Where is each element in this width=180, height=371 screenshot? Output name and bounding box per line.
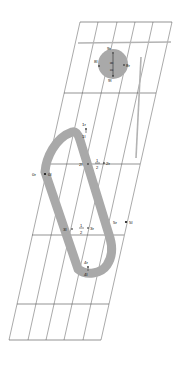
label-group-5: 5r 5l bbox=[113, 220, 132, 225]
diagram-canvas: 9r 9l 8l 8r 8 0 1r 1l 2l 1 2 bbox=[0, 0, 180, 371]
label-1r: 1r bbox=[82, 122, 86, 127]
label-0r: 0r bbox=[32, 172, 36, 177]
stadium-track-shape bbox=[45, 132, 112, 273]
label-group-1: 1r 1l bbox=[82, 122, 87, 139]
label-point-9r bbox=[112, 52, 114, 54]
label-4r: 4r bbox=[84, 260, 88, 265]
label-point-8l bbox=[98, 65, 100, 67]
label-8l: 8l bbox=[94, 59, 97, 64]
grid-column-line bbox=[28, 22, 98, 340]
geometric-diagram-svg: 9r 9l 8l 8r 8 0 1r 1l 2l 1 2 bbox=[0, 0, 180, 371]
label-2r: 2r bbox=[106, 161, 110, 166]
label-point-2l bbox=[87, 163, 89, 165]
label-3r: 3r bbox=[90, 226, 94, 231]
label-0l: 0l bbox=[48, 172, 51, 177]
label-9r: 9r bbox=[107, 46, 111, 51]
fraction-numerator: 1 bbox=[96, 158, 99, 163]
label-point-2r bbox=[103, 162, 105, 164]
label-4l: 4l bbox=[84, 272, 87, 277]
fraction-numerator-2: 1 bbox=[80, 223, 83, 228]
label-9l: 9l bbox=[108, 78, 111, 83]
label-8r: 8r bbox=[126, 63, 130, 68]
fraction-denominator: 2 bbox=[96, 165, 99, 170]
label-point-3r bbox=[87, 227, 89, 229]
fraction-denominator-2: 2 bbox=[80, 230, 83, 235]
label-point-8r bbox=[123, 64, 125, 66]
label-point-5 bbox=[125, 221, 127, 223]
vertical-accent-line bbox=[136, 57, 141, 158]
label-3l: 3l bbox=[63, 227, 66, 232]
label-point-3l bbox=[71, 228, 73, 230]
label-5r: 5r bbox=[113, 220, 117, 225]
label-5l: 5l bbox=[129, 220, 132, 225]
label-point-9l bbox=[112, 75, 114, 77]
label-point-0 bbox=[44, 173, 46, 175]
horizontal-accent-line bbox=[78, 42, 171, 43]
label-1l: 1l bbox=[82, 134, 85, 139]
label-2l: 2l bbox=[79, 162, 82, 167]
